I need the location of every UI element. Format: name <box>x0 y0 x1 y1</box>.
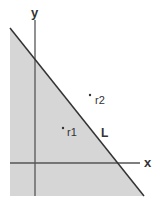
x-axis-label: x <box>144 155 152 170</box>
y-axis-label: y <box>31 5 39 20</box>
point-r2 <box>89 94 91 96</box>
point-r1 <box>62 127 64 129</box>
point-r1-label: r1 <box>67 126 77 138</box>
point-r2-label: r2 <box>95 94 105 106</box>
line-L-label: L <box>101 126 108 140</box>
half-plane-diagram: y x L r1 r2 <box>0 0 159 206</box>
